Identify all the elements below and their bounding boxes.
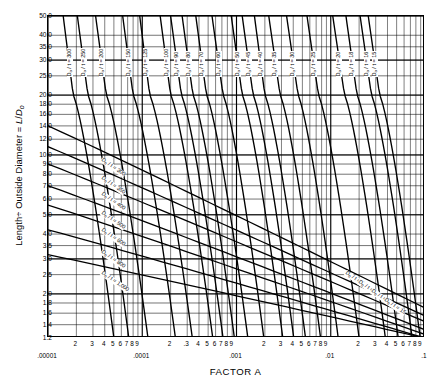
- x-axis-title: FACTOR A: [47, 366, 424, 377]
- curve-label: Do / t = 20: [336, 51, 342, 77]
- x-minor-tick-label: 7: [219, 340, 223, 347]
- x-minor-tick-label: 5: [300, 340, 304, 347]
- x-minor-tick-label: 7: [408, 340, 412, 347]
- curve-label: Do / t = 90: [174, 51, 180, 77]
- y-tick-label: 2.5: [18, 270, 52, 277]
- curve-label: Do / t = 100: [164, 48, 170, 77]
- curve-label: Do / t = 50: [235, 51, 241, 77]
- x-minor-tick-label: 7: [313, 340, 317, 347]
- y-tick-label: 4.0: [18, 230, 52, 237]
- x-decade-label: .1: [421, 352, 426, 359]
- x-minor-tick-label: 9: [135, 340, 139, 347]
- y-tick-label: 1.6: [18, 309, 52, 316]
- curve-label: Do / t = 200: [99, 48, 105, 77]
- x-minor-tick-label: 2: [262, 340, 266, 347]
- x-minor-tick-label: 2: [356, 340, 360, 347]
- y-tick-label: 1.8: [18, 298, 52, 305]
- curve-label: Do / t = 80: [186, 51, 192, 77]
- y-tick-label: 16.0: [18, 110, 52, 117]
- y-tick-label: 1.2: [18, 334, 52, 341]
- x-decade-label: .00001: [37, 352, 57, 359]
- x-minor-tick-label: 8: [130, 340, 134, 347]
- y-tick-label: 25.0: [18, 71, 52, 78]
- curve-label: Do / t = 250: [81, 48, 87, 77]
- y-tick-label: 8.0: [18, 170, 52, 177]
- curve-label: Do / t = 45: [246, 51, 252, 77]
- y-tick-label: 30.0: [18, 56, 52, 63]
- curve-label: Do / t = 15: [372, 51, 378, 77]
- x-decade-label: .0001: [133, 352, 149, 359]
- external-pressure-geometry-chart: Length÷ Outside Diameter = L/Do 50.040.0…: [0, 0, 433, 388]
- curve-label: Do / t = 300: [67, 48, 73, 77]
- x-minor-tick-label: 4: [102, 340, 106, 347]
- x-minor-tick-label: 8: [319, 340, 323, 347]
- curve-label: Do / t = 60: [216, 51, 222, 77]
- x-minor-tick-label: 8: [413, 340, 417, 347]
- x-minor-tick-label: 3: [373, 340, 377, 347]
- x-minor-tick-label: 9: [324, 340, 328, 347]
- x-minor-tick-label: 6: [213, 340, 217, 347]
- x-minor-tick-label: 3: [90, 340, 94, 347]
- y-tick-label: 5.0: [18, 210, 52, 217]
- y-tick-label: 12.0: [18, 135, 52, 142]
- y-tick-label: 7.0: [18, 181, 52, 188]
- y-tick-label: 40.0: [18, 31, 52, 38]
- y-tick-label: 18.0: [18, 100, 52, 107]
- x-minor-tick-label: 2: [74, 340, 78, 347]
- x-minor-tick-label: 6: [401, 340, 405, 347]
- x-minor-tick-label: 3: [279, 340, 283, 347]
- y-tick-label: 10.0: [18, 150, 52, 157]
- curve-label: Do / t = 125: [143, 48, 149, 77]
- y-tick-label: 1.4: [18, 320, 52, 327]
- y-tick-label: 9.0: [18, 160, 52, 167]
- y-tick-label: 50.0: [18, 12, 52, 19]
- x-minor-tick-label: 2: [168, 340, 172, 347]
- x-minor-tick-label: 6: [307, 340, 311, 347]
- curve-label: Do / t = 25: [311, 51, 317, 77]
- curve-label: Do / t = 18: [349, 51, 355, 77]
- y-tick-label: 20.0: [18, 91, 52, 98]
- curve-label: Do / t = 150: [126, 48, 132, 77]
- y-tick-label: 3.5: [18, 241, 52, 248]
- x-minor-tick-label: 4: [385, 340, 389, 347]
- x-minor-tick-label: 9: [229, 340, 233, 347]
- x-decade-label: .01: [325, 352, 334, 359]
- x-minor-tick-label: 7: [125, 340, 129, 347]
- x-minor-tick-label: 8: [225, 340, 229, 347]
- curve-label: Do / t = 40: [258, 51, 264, 77]
- x-minor-tick-label: 9: [418, 340, 422, 347]
- x-minor-tick-label: 6: [119, 340, 123, 347]
- curve-label: Do / t = 30: [290, 51, 296, 77]
- curve-label: Do / t = 35: [272, 51, 278, 77]
- y-tick-label: 2.0: [18, 289, 52, 296]
- x-minor-tick-label: 4: [196, 340, 200, 347]
- x-minor-tick-label: 5: [394, 340, 398, 347]
- y-tick-label: 35.0: [18, 42, 52, 49]
- curve-label: Do / t = 16: [364, 51, 370, 77]
- y-tick-label: 14.0: [18, 121, 52, 128]
- x-decade-label: .001: [229, 352, 241, 359]
- curve-label: Do / t = 70: [199, 51, 205, 77]
- x-minor-tick-label: 4: [290, 340, 294, 347]
- x-minor-tick-label: .3: [184, 340, 189, 347]
- y-tick-label: 3.0: [18, 254, 52, 261]
- x-minor-tick-label: 5: [205, 340, 209, 347]
- x-minor-tick-label: 5: [111, 340, 115, 347]
- y-tick-label: 6.0: [18, 195, 52, 202]
